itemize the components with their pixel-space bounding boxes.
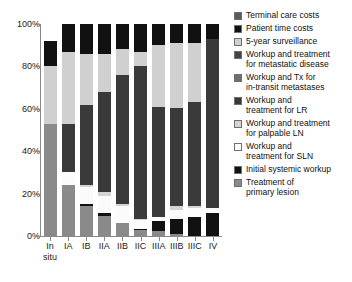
- bar-segment: [188, 43, 201, 102]
- legend-swatch-icon: [234, 12, 242, 20]
- bar-segment: [152, 45, 165, 106]
- bar-iiib: [170, 24, 183, 236]
- bar-segment: [116, 206, 129, 223]
- bar-segment: [98, 92, 111, 192]
- legend-label: Terminal care costs: [246, 10, 319, 20]
- stacked-bars: [41, 24, 222, 236]
- bar-segment: [134, 66, 147, 219]
- legend-swatch-icon: [234, 97, 242, 105]
- bar-segment: [152, 231, 165, 236]
- y-tickmark: [36, 109, 40, 110]
- bar-segment: [80, 105, 93, 186]
- chart-legend: Terminal care costsPatient time costs5-y…: [234, 10, 352, 200]
- bar-segment: [188, 217, 201, 236]
- y-tick-label: 0%: [2, 232, 40, 241]
- bar-segment: [170, 219, 183, 234]
- legend-item: Terminal care costs: [234, 10, 352, 20]
- x-tick-label-line: situ: [35, 252, 65, 263]
- bar-segment: [62, 52, 75, 124]
- legend-label: Initial systemic workup: [246, 164, 331, 174]
- legend-swatch-icon: [234, 120, 242, 128]
- legend-swatch-icon: [234, 51, 242, 59]
- legend-label: Workup and treatment for palpable LN: [246, 118, 330, 138]
- bar-segment: [62, 172, 75, 185]
- bar-segment: [170, 234, 183, 236]
- bar-segment: [170, 108, 183, 207]
- bar-segment: [152, 221, 165, 231]
- bar-ib: [80, 24, 93, 236]
- bar-segment: [80, 54, 93, 105]
- legend-swatch-icon: [234, 166, 242, 174]
- bar-segment: [80, 24, 93, 54]
- bar-segment: [44, 41, 57, 66]
- plot-area: 0%20%40%60%80%100% InsituIAIBIIAIIBIICII…: [0, 0, 232, 282]
- legend-swatch-icon: [234, 179, 242, 187]
- bar-iiic: [188, 24, 201, 236]
- legend-swatch-icon: [234, 38, 242, 46]
- bar-iia: [98, 24, 111, 236]
- bar-segment: [62, 24, 75, 52]
- legend-item: 5-year surveillance: [234, 36, 352, 46]
- bar-segment: [116, 24, 129, 49]
- y-tickmark: [36, 66, 40, 67]
- bar-segment: [188, 208, 201, 216]
- legend-item: Treatment of primary lesion: [234, 177, 352, 197]
- legend-item: Workup and treatment for SLN: [234, 141, 352, 161]
- bar-segment: [134, 24, 147, 52]
- x-tick-label: IV: [198, 241, 228, 252]
- y-tick-label: 100%: [2, 20, 40, 29]
- legend-swatch-icon: [234, 74, 242, 82]
- bar-segment: [170, 24, 183, 43]
- bar-segment: [188, 102, 201, 206]
- y-tickmark: [36, 151, 40, 152]
- y-tickmark: [36, 194, 40, 195]
- legend-item: Workup and treatment for palpable LN: [234, 118, 352, 138]
- y-tick-label: 40%: [2, 147, 40, 156]
- bar-segment: [62, 124, 75, 173]
- bar-segment: [206, 213, 219, 236]
- x-tick-label-line: IV: [198, 241, 228, 252]
- bar-segment: [116, 75, 129, 204]
- bar-segment: [170, 43, 183, 108]
- legend-label: Workup and Tx for in-transit metastases: [246, 72, 324, 92]
- bar-segment: [98, 24, 111, 54]
- bar-segment: [152, 107, 165, 217]
- bar-segment: [170, 210, 183, 220]
- bar-iib: [116, 24, 129, 236]
- bar-ia: [62, 24, 75, 236]
- y-tickmark: [36, 24, 40, 25]
- legend-label: Workup and treatment for SLN: [246, 141, 313, 161]
- chart-screenshot: 0%20%40%60%80%100% InsituIAIBIIAIIBIICII…: [0, 0, 352, 282]
- bar-segment: [98, 196, 111, 213]
- legend-item: Patient time costs: [234, 23, 352, 33]
- bar-segment: [80, 187, 93, 204]
- legend-item: Initial systemic workup: [234, 164, 352, 174]
- bar-segment: [134, 52, 147, 67]
- legend-item: Workup and treatment for LR: [234, 95, 352, 115]
- bar-in-situ: [44, 24, 57, 236]
- y-tick-label: 80%: [2, 62, 40, 71]
- legend-swatch-icon: [234, 143, 242, 151]
- bar-iv: [206, 24, 219, 236]
- bar-segment: [62, 185, 75, 236]
- y-tick-label: 60%: [2, 104, 40, 113]
- bar-segment: [116, 223, 129, 236]
- bar-segment: [98, 54, 111, 92]
- legend-label: Treatment of primary lesion: [246, 177, 299, 197]
- bar-segment: [206, 24, 219, 39]
- bar-segment: [152, 24, 165, 45]
- legend-item: Workup and treatment for metastatic dise…: [234, 49, 352, 69]
- x-axis-tick-labels: InsituIAIBIIAIIBIICIIIAIIIBIIICIV: [41, 241, 222, 281]
- y-tickmark: [36, 236, 40, 237]
- bar-segment: [134, 220, 147, 228]
- legend-label: Workup and treatment for metastatic dise…: [246, 49, 330, 69]
- y-axis-tick-labels: 0%20%40%60%80%100%: [0, 0, 40, 282]
- bar-segment: [134, 230, 147, 236]
- bar-segment: [44, 124, 57, 236]
- bar-segment: [206, 39, 219, 209]
- legend-label: Patient time costs: [246, 23, 313, 33]
- bar-iiia: [152, 24, 165, 236]
- bar-segment: [80, 206, 93, 236]
- bar-segment: [188, 24, 201, 43]
- legend-swatch-icon: [234, 25, 242, 33]
